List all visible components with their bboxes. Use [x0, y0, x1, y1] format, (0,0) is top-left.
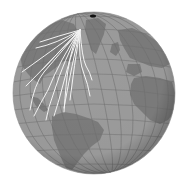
globe-map — [0, 0, 184, 185]
globe-svg — [0, 0, 184, 185]
limb-shading — [13, 12, 175, 174]
north-pole-marker — [90, 15, 96, 18]
